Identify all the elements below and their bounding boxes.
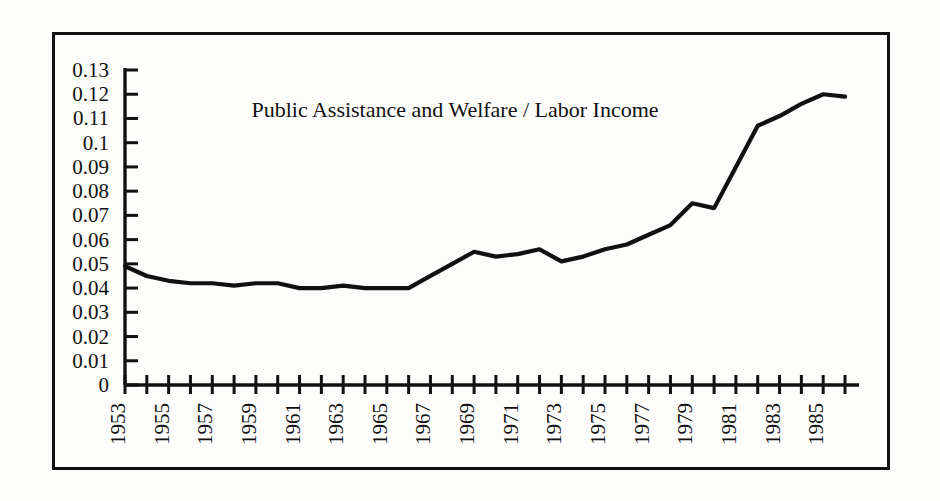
x-tick-label: 1955 (150, 403, 174, 445)
y-tick-label: 0.02 (72, 325, 109, 349)
x-tick-label: 1971 (499, 403, 523, 445)
y-tick-label: 0.11 (73, 106, 109, 130)
y-tick-label: 0.08 (72, 179, 109, 203)
y-tick-label: 0.09 (72, 155, 109, 179)
y-tick-label: 0.07 (72, 203, 109, 227)
y-tick-label: 0 (99, 373, 110, 397)
x-tick-label: 1973 (542, 403, 566, 445)
x-tick-label: 1953 (106, 403, 130, 445)
y-tick-label: 0.05 (72, 252, 109, 276)
x-tick-label: 1983 (761, 403, 785, 445)
x-tick-label: 1965 (368, 403, 392, 445)
chart-title: Public Assistance and Welfare / Labor In… (251, 97, 658, 122)
y-tick-label: 0.13 (72, 58, 109, 82)
x-tick-label: 1957 (193, 403, 217, 445)
x-tick-label: 1981 (717, 403, 741, 445)
y-tick-label: 0.06 (72, 228, 109, 252)
y-tick-label: 0.01 (72, 349, 109, 373)
line-chart: 0.130.120.110.10.090.080.070.060.050.040… (0, 0, 940, 501)
x-tick-label: 1961 (281, 403, 305, 445)
x-tick-label: 1975 (586, 403, 610, 445)
chart-page: 0.130.120.110.10.090.080.070.060.050.040… (0, 0, 940, 501)
x-tick-label: 1979 (673, 403, 697, 445)
x-tick-label: 1985 (804, 403, 828, 445)
y-tick-label: 0.03 (72, 300, 109, 324)
x-tick-label: 1963 (324, 403, 348, 445)
data-series-line (125, 94, 845, 288)
x-tick-label: 1967 (411, 403, 435, 445)
x-tick-label: 1977 (630, 403, 654, 445)
y-tick-label: 0.1 (83, 131, 109, 155)
plot-area: 0.130.120.110.10.090.080.070.060.050.040… (0, 0, 940, 501)
y-tick-label: 0.04 (72, 276, 109, 300)
x-tick-label: 1969 (455, 403, 479, 445)
y-tick-label: 0.12 (72, 82, 109, 106)
x-tick-label: 1959 (237, 403, 261, 445)
